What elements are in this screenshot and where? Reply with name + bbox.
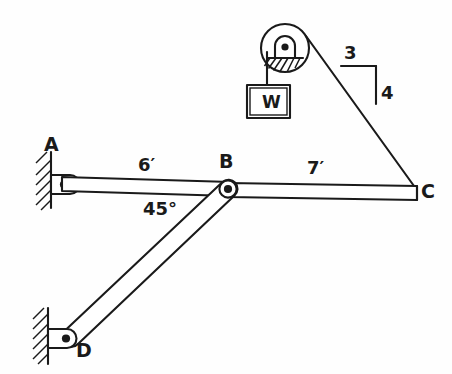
- engineering-diagram-figure: A B C: [0, 0, 452, 374]
- slope-triangle: [341, 66, 376, 104]
- pulley-axle: [281, 43, 288, 50]
- label-point-d: D: [76, 339, 92, 361]
- statics-diagram-canvas: A B C: [0, 0, 452, 374]
- label-weight: W: [262, 92, 281, 112]
- pin-center-d: [62, 334, 70, 342]
- pin-support-d: [33, 308, 77, 364]
- beam-segment-bc: [228, 183, 417, 200]
- joint-b-pin: [224, 185, 232, 193]
- label-point-b: B: [219, 150, 234, 172]
- label-point-c: C: [421, 180, 435, 202]
- joint-b: [219, 180, 236, 197]
- beam-abc: [62, 177, 417, 200]
- label-slope-rise: 4: [381, 82, 394, 103]
- wall-hatching-a: [36, 152, 51, 210]
- label-span-bc: 7′: [307, 157, 325, 178]
- label-span-ab: 6′: [138, 154, 156, 175]
- wall-hatching-d: [33, 308, 48, 364]
- beam-segment-ab: [62, 177, 231, 196]
- label-angle-bd: 45°: [143, 198, 177, 219]
- label-slope-run: 3: [344, 42, 357, 63]
- label-point-a: A: [44, 133, 59, 155]
- pulley-assembly: [261, 24, 309, 72]
